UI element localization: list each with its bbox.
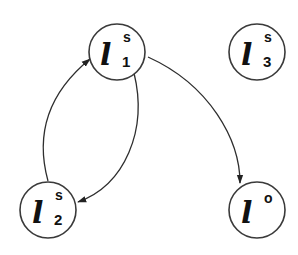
edge-l1s-to-lo	[148, 57, 240, 183]
node-circle	[229, 182, 285, 238]
node-l3s: l s 3	[229, 24, 285, 80]
node-superscript: s	[123, 29, 131, 45]
node-l1s: l s 1	[89, 24, 145, 80]
node-symbol: l	[241, 195, 252, 230]
node-circle	[20, 182, 76, 238]
node-circle	[229, 24, 285, 80]
edge-l1s-to-l2s	[78, 73, 138, 202]
state-graph: l s 1 l s 3 l s 2 l o	[0, 0, 298, 255]
node-subscript: 3	[263, 53, 271, 70]
node-subscript: 1	[122, 53, 130, 70]
node-symbol: l	[241, 37, 252, 72]
node-superscript: s	[264, 29, 272, 45]
node-superscript: s	[55, 187, 63, 203]
node-circle	[89, 24, 145, 80]
node-l2s: l s 2	[20, 182, 76, 238]
node-subscript: 2	[54, 211, 62, 228]
node-symbol: l	[100, 37, 111, 72]
node-superscript: o	[264, 190, 273, 206]
node-lo: l o	[229, 182, 285, 238]
edge-l2s-to-l1s	[43, 59, 90, 181]
node-symbol: l	[32, 195, 43, 230]
